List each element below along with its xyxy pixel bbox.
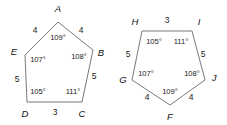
angle-label-f: 109° <box>162 87 178 96</box>
angle-label-d: 105° <box>30 87 46 96</box>
pentagon-fghij-group: F G H I J 109° 107° 105° 111° 108° 3 5 4… <box>119 15 216 121</box>
side-label-de: 5 <box>15 74 20 84</box>
vertex-label-g: G <box>119 74 126 85</box>
vertex-label-a: A <box>54 3 61 14</box>
side-label-fg: 4 <box>145 92 150 102</box>
side-label-ij: 5 <box>201 49 206 59</box>
angle-label-i: 111° <box>174 37 189 46</box>
pentagons-diagram: A B C D E 109° 108° 111° 105° 107° 4 4 5… <box>0 0 227 125</box>
geometry-figure: A B C D E 109° 108° 111° 105° 107° 4 4 5… <box>0 0 227 125</box>
angle-label-c: 111° <box>66 87 81 96</box>
vertex-label-j: J <box>211 72 217 83</box>
angle-label-e: 107° <box>30 55 46 64</box>
angle-label-j: 108° <box>184 69 200 78</box>
side-label-ab: 4 <box>79 25 84 35</box>
angle-label-g: 107° <box>138 69 154 78</box>
side-label-jf: 4 <box>189 92 194 102</box>
angle-label-a: 109° <box>50 33 66 42</box>
vertex-label-c: C <box>79 108 86 119</box>
side-label-cd: 3 <box>53 107 58 117</box>
vertex-label-h: H <box>132 16 139 27</box>
side-label-ea: 4 <box>33 25 38 35</box>
vertex-label-d: D <box>22 108 29 119</box>
side-label-hi: 3 <box>165 15 170 25</box>
angle-label-h: 105° <box>146 37 162 46</box>
angle-label-b: 108° <box>71 52 87 61</box>
side-label-gh: 5 <box>126 49 131 59</box>
pentagon-abcde-group: A B C D E 109° 108° 111° 105° 107° 4 4 5… <box>11 3 105 119</box>
vertex-label-i: I <box>198 16 201 27</box>
vertex-label-f: F <box>167 111 174 122</box>
side-label-bc: 5 <box>92 71 97 81</box>
vertex-label-e: E <box>11 46 18 57</box>
vertex-label-b: B <box>98 47 105 58</box>
